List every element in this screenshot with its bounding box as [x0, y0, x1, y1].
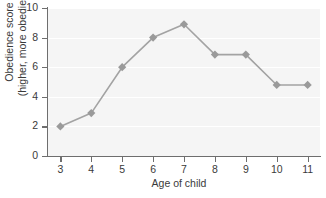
data-point-marker — [304, 81, 312, 89]
obedience-score-line-chart: Obedience score (higher, more obedient) … — [0, 0, 326, 198]
x-axis-title: Age of child — [46, 177, 312, 189]
series-markers — [56, 20, 311, 130]
series-line — [60, 24, 307, 126]
data-series-layer — [0, 0, 326, 198]
data-point-marker — [56, 122, 64, 130]
